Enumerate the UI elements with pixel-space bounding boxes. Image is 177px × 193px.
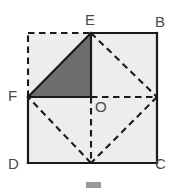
footer-mark: [86, 182, 101, 188]
vertex-label-E: E: [85, 12, 95, 27]
geometry-figure: E B F O D C: [0, 0, 177, 193]
vertex-label-F: F: [8, 88, 17, 103]
vertex-label-O: O: [95, 99, 107, 114]
vertex-label-D: D: [8, 156, 19, 171]
vertex-label-C: C: [155, 156, 166, 171]
geometry-canvas: [0, 0, 177, 193]
vertex-label-B: B: [155, 14, 165, 29]
